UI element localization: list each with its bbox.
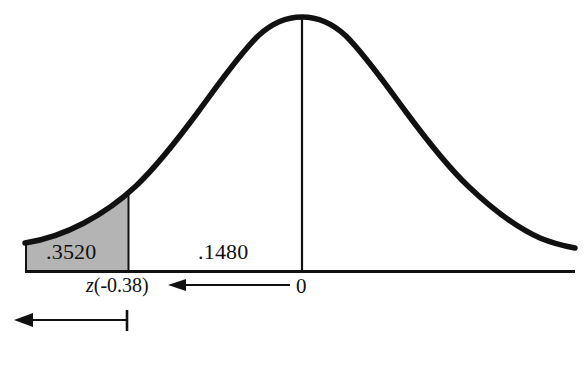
tail-arrow xyxy=(14,310,127,331)
unshaded-area-label: .1480 xyxy=(198,239,249,265)
shaded-area-label: .3520 xyxy=(46,239,97,265)
z-arrow xyxy=(168,279,290,291)
z-value-label: z(-0.38) xyxy=(86,274,149,297)
normal-distribution-figure: .3520 .1480 z(-0.38) 0 xyxy=(0,0,584,371)
distribution-chart-svg xyxy=(0,0,584,371)
z-value-parenthetical: (-0.38) xyxy=(94,274,149,296)
mean-label: 0 xyxy=(296,274,307,299)
z-symbol: z xyxy=(86,274,94,296)
